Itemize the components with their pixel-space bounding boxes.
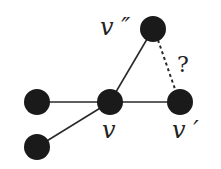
node-v (97, 89, 123, 115)
node-bottom-left (24, 134, 50, 160)
label-v-double-prime: v ″ (100, 13, 130, 41)
node-left (24, 89, 50, 115)
graph-canvas: v v ′ v ″ ? (0, 0, 221, 169)
node-v-prime (167, 89, 193, 115)
label-question: ? (177, 52, 189, 77)
graph-diagram: v v ′ v ″ ? (0, 0, 221, 169)
label-v-prime: v ′ (172, 116, 199, 144)
label-v: v (102, 116, 116, 144)
edge-vdoubleprime-vprime-dotted (158, 40, 176, 92)
node-v-double-prime (140, 16, 166, 42)
